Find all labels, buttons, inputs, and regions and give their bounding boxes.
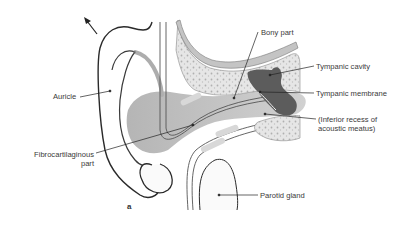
label-tympanic-cavity: Tympanic cavity [316, 62, 370, 71]
panel-letter: a [127, 202, 131, 211]
direction-arrow-icon [84, 17, 97, 34]
label-parotid-gland: Parotid gland [260, 191, 305, 200]
parotid-gland [199, 159, 237, 210]
label-tympanic-membrane: Tympanic membrane [316, 89, 387, 98]
label-auricle: Auricle [53, 92, 76, 101]
label-fibrocartilaginous-part: Fibrocartilaginous part [22, 150, 94, 168]
label-inferior-recess: (Inferior recess of acoustic meatus) [318, 115, 377, 133]
ear-illustration [0, 0, 412, 226]
label-bony-part: Bony part [261, 28, 294, 37]
ear-canal-diagram: Auricle Fibrocartilaginous part Bony par… [0, 0, 412, 226]
